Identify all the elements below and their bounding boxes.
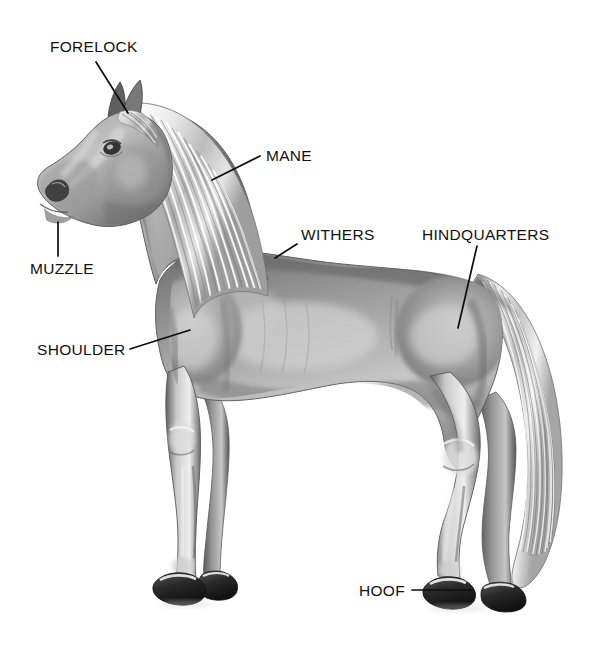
ground-shadow-hind [428, 604, 488, 612]
horse-head [38, 80, 178, 227]
diagram-canvas: FORELOCK MANE MUZZLE WITHERS HINDQUARTER… [0, 0, 605, 646]
label-hoof: HOOF [359, 582, 405, 599]
leader-line-withers [275, 244, 297, 258]
label-muzzle: MUZZLE [30, 260, 94, 277]
label-mane: MANE [266, 147, 312, 164]
horse-front-leg-far [198, 388, 238, 600]
label-forelock: FORELOCK [50, 38, 138, 55]
horse-front-leg-near [153, 366, 206, 605]
label-withers: WITHERS [301, 226, 375, 243]
horse-fetlock [172, 557, 194, 575]
ground-shadow-front [159, 600, 211, 608]
label-shoulder: SHOULDER [37, 341, 126, 358]
horse-anatomy-diagram: FORELOCK MANE MUZZLE WITHERS HINDQUARTER… [0, 0, 605, 646]
label-hindquarters: HINDQUARTERS [422, 226, 549, 243]
